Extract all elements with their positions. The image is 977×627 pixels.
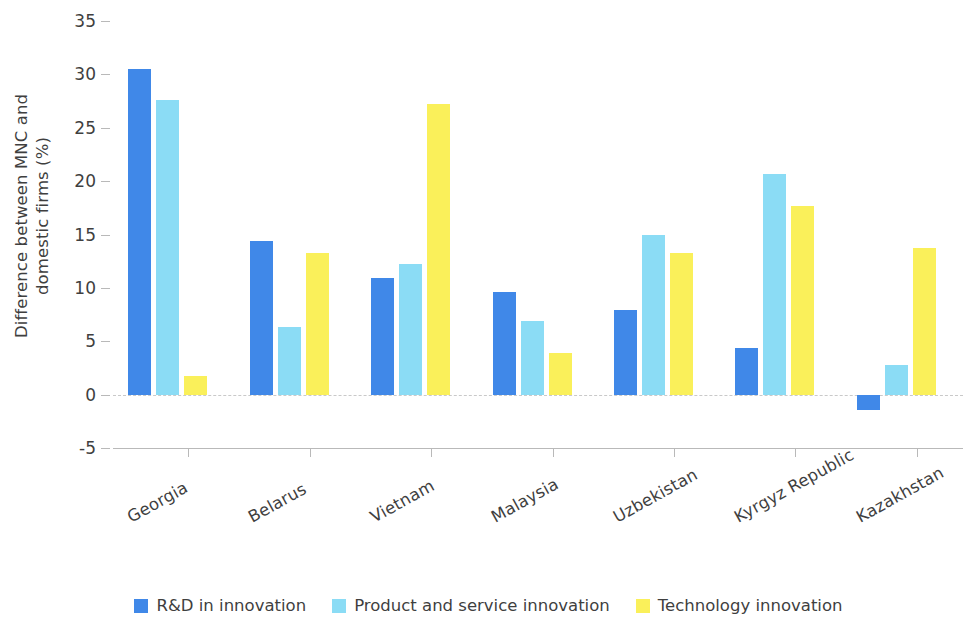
y-axis-tick-label: 30 (74, 62, 96, 86)
y-axis-tick-mark (101, 235, 110, 236)
bar (493, 292, 516, 394)
x-axis-tick-mark (795, 448, 796, 457)
y-axis-tick-label: 15 (74, 223, 96, 247)
y-axis-tick-mark (101, 74, 110, 75)
bar (427, 104, 450, 394)
bar (913, 248, 936, 394)
y-axis-title: Difference between MNC and domestic firm… (14, 6, 50, 426)
bar (791, 206, 814, 395)
plot-area (113, 21, 963, 448)
y-axis-tick-mark (101, 21, 110, 22)
bar (306, 253, 329, 395)
x-axis-tick-mark (188, 448, 189, 457)
x-axis-label: Georgia (124, 478, 191, 527)
legend-item[interactable]: Product and service innovation (332, 596, 610, 615)
x-axis-tick-mark (553, 448, 554, 457)
legend-label: Product and service innovation (354, 596, 610, 615)
bar (549, 353, 572, 395)
legend-label: Technology innovation (658, 596, 843, 615)
x-axis-label: Malaysia (488, 474, 562, 526)
y-axis-tick-mark (101, 288, 110, 289)
bar-chart: Difference between MNC and domestic firm… (0, 0, 977, 627)
y-axis-tick-mark (101, 181, 110, 182)
bar (763, 174, 786, 395)
legend-label: R&D in innovation (156, 596, 306, 615)
x-axis-label: Vietnam (367, 476, 438, 527)
y-axis-tick-label: 25 (74, 116, 96, 140)
legend-swatch-icon (134, 599, 148, 613)
x-axis-tick-mark (917, 448, 918, 457)
bar (371, 278, 394, 394)
bar (128, 69, 151, 395)
x-axis-line (113, 448, 963, 449)
x-axis-label: Kazakhstan (853, 463, 947, 527)
bar (250, 241, 273, 395)
y-axis-tick-mark (101, 128, 110, 129)
legend-item[interactable]: Technology innovation (636, 596, 843, 615)
bar (184, 376, 207, 394)
zero-reference-line (113, 395, 963, 396)
x-axis-label: Uzbekistan (610, 465, 701, 527)
y-axis-tick-label: 35 (74, 9, 96, 33)
bar (521, 321, 544, 395)
y-axis-tick-label: 5 (85, 329, 96, 353)
y-axis-tick-label: 20 (74, 169, 96, 193)
x-axis-tick-mark (431, 448, 432, 457)
y-axis-tick-label: -5 (79, 436, 96, 460)
bar (735, 348, 758, 395)
bar (642, 235, 665, 395)
y-axis-tick-mark (101, 341, 110, 342)
bar (278, 327, 301, 394)
y-axis-tick-label: 10 (74, 276, 96, 300)
x-axis-tick-mark (310, 448, 311, 457)
bar (670, 253, 693, 395)
x-axis-tick-mark (674, 448, 675, 457)
y-axis-tick-mark (101, 448, 110, 449)
legend-item[interactable]: R&D in innovation (134, 596, 306, 615)
legend-swatch-icon (636, 599, 650, 613)
bar (857, 395, 880, 410)
bar (156, 100, 179, 395)
y-axis-tick-label: 0 (85, 383, 96, 407)
bar (885, 365, 908, 395)
bar (614, 310, 637, 394)
x-axis-label: Belarus (245, 479, 310, 526)
x-axis-label: Kyrgyz Republic (731, 445, 857, 526)
chart-legend: R&D in innovationProduct and service inn… (0, 596, 977, 615)
bar (399, 264, 422, 394)
legend-swatch-icon (332, 599, 346, 613)
y-axis-tick-mark (101, 395, 110, 396)
